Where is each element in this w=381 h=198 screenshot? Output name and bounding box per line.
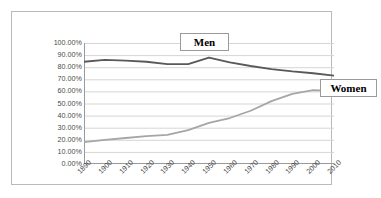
y-tick-label: 10.00%: [26, 148, 82, 156]
y-tick-label: 40.00%: [26, 112, 82, 120]
y-tick-label: 90.00%: [26, 51, 82, 59]
y-tick-label: 0.00%: [26, 160, 82, 168]
plot-svg: [84, 43, 334, 164]
chart-frame: 100.00%90.00%80.00%70.00%60.00%50.00%40.…: [11, 11, 332, 185]
y-tick-label: 60.00%: [26, 87, 82, 95]
series-callout-women: Women: [320, 79, 377, 97]
chart-figure: 100.00%90.00%80.00%70.00%60.00%50.00%40.…: [0, 0, 381, 198]
series-lines: [84, 58, 334, 143]
y-tick-label: 20.00%: [26, 136, 82, 144]
plot-area: [84, 43, 334, 164]
y-tick-label: 30.00%: [26, 124, 82, 132]
y-tick-label: 70.00%: [26, 75, 82, 83]
y-axis: 100.00%90.00%80.00%70.00%60.00%50.00%40.…: [26, 37, 82, 170]
x-axis: 1890190019101920193019401950196019701980…: [84, 164, 334, 198]
series-callout-men: Men: [180, 33, 229, 51]
y-tick-label: 50.00%: [26, 100, 82, 108]
y-tick-label: 80.00%: [26, 63, 82, 71]
series-line-men: [84, 58, 334, 76]
gridlines: [84, 44, 334, 165]
y-tick-label: 100.00%: [26, 39, 82, 47]
